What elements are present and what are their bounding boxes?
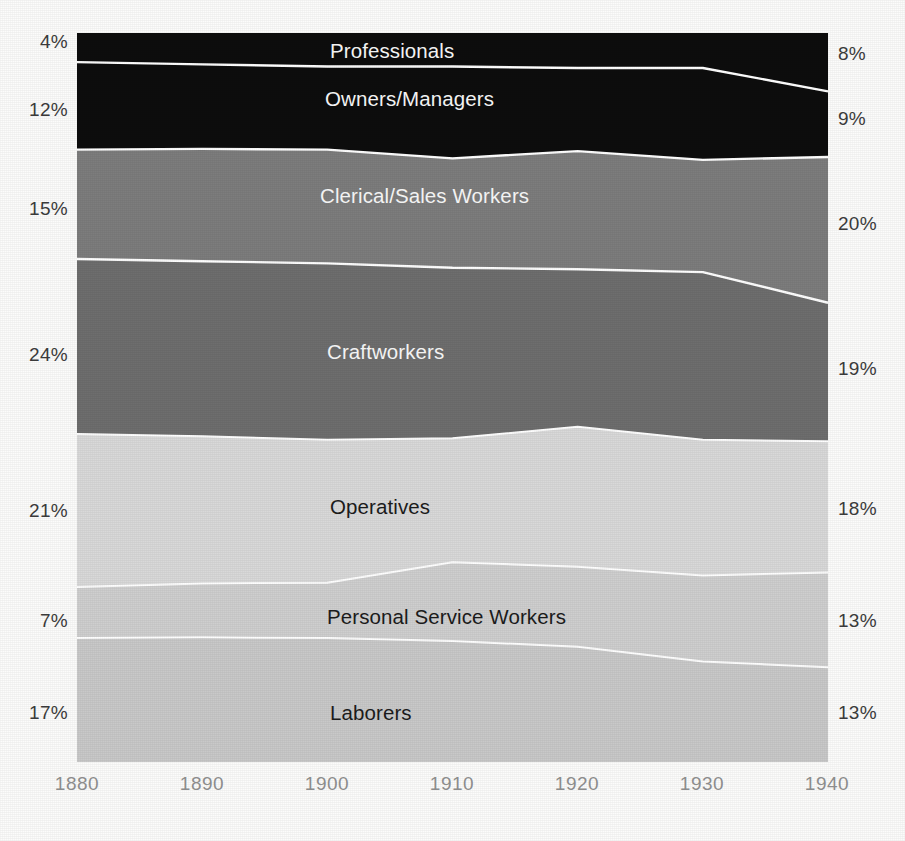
left-axis-label-laborers: 17% bbox=[12, 702, 68, 724]
band-label-owners-managers: Owners/Managers bbox=[325, 87, 494, 111]
x-axis-tick-1920: 1920 bbox=[547, 773, 607, 795]
x-axis-tick-1900: 1900 bbox=[297, 773, 357, 795]
x-axis-tick-1930: 1930 bbox=[672, 773, 732, 795]
area-band-owners-managers bbox=[77, 62, 828, 160]
right-axis-label-clerical-sales-workers: 20% bbox=[838, 213, 877, 235]
left-axis-label-operatives: 21% bbox=[12, 500, 68, 522]
right-axis-label-craftworkers: 19% bbox=[838, 358, 877, 380]
left-axis-label-professionals: 4% bbox=[12, 31, 68, 53]
right-axis-label-laborers: 13% bbox=[838, 702, 877, 724]
x-axis-tick-1940: 1940 bbox=[797, 773, 857, 795]
band-label-clerical-sales-workers: Clerical/Sales Workers bbox=[320, 184, 529, 208]
area-band-craftworkers bbox=[77, 259, 828, 441]
band-label-craftworkers: Craftworkers bbox=[327, 340, 444, 364]
x-axis-tick-1910: 1910 bbox=[422, 773, 482, 795]
left-axis-label-personal-service-workers: 7% bbox=[12, 610, 68, 632]
band-label-professionals: Professionals bbox=[330, 39, 454, 63]
band-label-personal-service-workers: Personal Service Workers bbox=[327, 605, 566, 629]
left-axis-label-owners-managers: 12% bbox=[12, 99, 68, 121]
band-label-laborers: Laborers bbox=[330, 701, 412, 725]
left-axis-label-clerical-sales-workers: 15% bbox=[12, 198, 68, 220]
x-axis-tick-1880: 1880 bbox=[47, 773, 107, 795]
left-axis-label-craftworkers: 24% bbox=[12, 344, 68, 366]
right-axis-label-operatives: 18% bbox=[838, 498, 877, 520]
stacked-area-chart: 4% 12% 15% 24% 21% 7% 17% 8% 9% 20% 19% … bbox=[0, 0, 905, 841]
right-axis-label-owners-managers: 9% bbox=[838, 108, 866, 130]
chart-plot-area bbox=[0, 0, 905, 841]
right-axis-label-personal-service-workers: 13% bbox=[838, 610, 877, 632]
right-axis-label-professionals: 8% bbox=[838, 43, 866, 65]
band-label-operatives: Operatives bbox=[330, 495, 430, 519]
x-axis-tick-1890: 1890 bbox=[172, 773, 232, 795]
